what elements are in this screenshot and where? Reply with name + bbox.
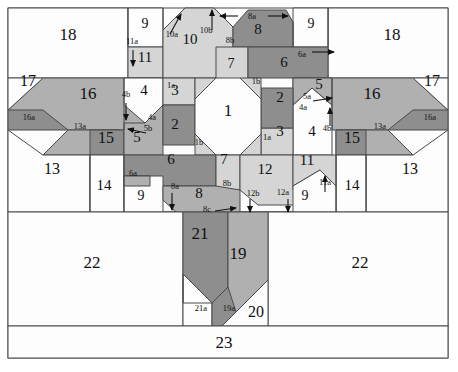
piece-label-9b: 9 bbox=[308, 16, 315, 31]
piece-label-6R: 6 bbox=[280, 54, 288, 70]
sublabel-s-12a: 12a bbox=[277, 187, 290, 197]
sublabel-s-6a-R: 6a bbox=[298, 49, 306, 59]
sublabel-s-13a-L: 13a bbox=[74, 121, 87, 131]
sublabel-s-4a-R: 4a bbox=[299, 102, 307, 112]
piece-label-18L: 18 bbox=[60, 25, 77, 44]
piece-label-9d: 9 bbox=[302, 188, 309, 203]
piece-label-21: 21 bbox=[192, 224, 209, 243]
dissection-svg: .p{stroke:#4a4a4a;stroke-width:1;stroke-… bbox=[0, 0, 458, 372]
sublabel-s-11a-R: 11a bbox=[319, 177, 331, 187]
piece-label-8: 8 bbox=[254, 21, 262, 37]
piece-label-19: 19 bbox=[230, 244, 247, 263]
sublabel-s-4b-L: 4b bbox=[122, 89, 131, 99]
piece-label-14L: 14 bbox=[97, 177, 113, 193]
piece-label-23: 23 bbox=[216, 333, 233, 352]
piece-label-3R: 3 bbox=[276, 123, 284, 139]
sublabel-s-11a-L: 11a bbox=[126, 36, 138, 46]
piece-label-11b: 11 bbox=[300, 152, 314, 168]
sublabel-s-6a-L: 6a bbox=[129, 168, 137, 178]
sublabel-s-4a-L: 4a bbox=[148, 112, 156, 122]
sublabel-s-1a-R: 1a bbox=[263, 132, 271, 142]
sublabel-s-12b: 12b bbox=[247, 188, 260, 198]
sublabel-s-1b-L: 1b bbox=[195, 137, 204, 147]
sublabel-s-8a-T: 8a bbox=[248, 11, 256, 21]
piece-label-9a: 9 bbox=[142, 16, 149, 31]
sublabel-s-10a: 10a bbox=[166, 29, 179, 39]
sublabel-s-10b: 10b bbox=[200, 25, 213, 35]
sublabel-s-19a: 19a bbox=[223, 303, 236, 313]
sublabel-s-4b-R: 4b bbox=[323, 123, 332, 133]
piece-label-13L: 13 bbox=[44, 160, 60, 177]
sublabel-s-8b-B: 8b bbox=[223, 178, 232, 188]
piece-label-8b: 8 bbox=[195, 185, 203, 201]
piece-label-5R: 5 bbox=[315, 76, 323, 92]
piece-label-4R: 4 bbox=[308, 123, 316, 139]
sublabel-s-8a-B: 8a bbox=[171, 181, 179, 191]
piece-label-17L: 17 bbox=[20, 72, 36, 89]
piece-label-15L: 15 bbox=[98, 129, 114, 146]
sublabel-s-1a-L: 1a bbox=[167, 80, 175, 90]
piece-label-6L: 6 bbox=[167, 151, 175, 167]
piece-label-2R: 2 bbox=[276, 89, 284, 105]
piece-label-4L: 4 bbox=[140, 82, 148, 98]
dissection-figure: .p{stroke:#4a4a4a;stroke-width:1;stroke-… bbox=[0, 0, 458, 372]
piece-label-7L: 7 bbox=[228, 56, 235, 71]
piece-label-1: 1 bbox=[224, 101, 233, 120]
piece-label-5L: 5 bbox=[133, 129, 141, 145]
piece-label-10: 10 bbox=[183, 31, 198, 47]
piece-label-16L: 16 bbox=[80, 84, 97, 103]
piece-label-22L: 22 bbox=[84, 253, 101, 272]
piece-2-left bbox=[163, 105, 195, 145]
sublabel-s-1b-R: 1b bbox=[252, 76, 261, 86]
piece-label-7R: 7 bbox=[221, 152, 228, 167]
sublabel-s-16a-R: 16a bbox=[424, 112, 437, 122]
piece-label-13R: 13 bbox=[402, 160, 418, 177]
piece-label-14R: 14 bbox=[345, 177, 361, 193]
sublabel-s-5a: 5a bbox=[303, 91, 311, 101]
sublabel-s-13a-R: 13a bbox=[374, 121, 387, 131]
piece-label-16R: 16 bbox=[364, 84, 381, 103]
piece-label-12: 12 bbox=[258, 161, 273, 177]
piece-label-18R: 18 bbox=[384, 25, 401, 44]
sublabel-s-21a: 21a bbox=[195, 303, 208, 313]
piece-label-22R: 22 bbox=[352, 253, 369, 272]
sublabel-s-5b: 5b bbox=[144, 123, 153, 133]
piece-label-17R: 17 bbox=[424, 72, 440, 89]
piece-label-15R: 15 bbox=[344, 129, 360, 146]
piece-label-9c: 9 bbox=[138, 188, 145, 203]
piece-label-11a: 11 bbox=[138, 49, 152, 65]
sublabel-s-8b-T: 8b bbox=[226, 35, 235, 45]
piece-label-20: 20 bbox=[248, 303, 264, 320]
sublabel-s-16a-L: 16a bbox=[23, 112, 36, 122]
piece-label-2L: 2 bbox=[171, 116, 179, 132]
sublabel-s-8c: 8c bbox=[203, 204, 211, 214]
